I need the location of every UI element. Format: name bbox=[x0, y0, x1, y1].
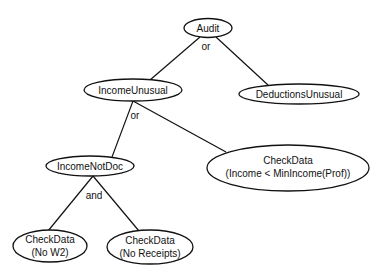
node-checkw2-label-line2: (No W2) bbox=[31, 247, 68, 258]
edge-incomenotdoc-checkw2 bbox=[48, 176, 93, 231]
edge-incomeunusual-checkincome bbox=[133, 101, 226, 152]
gate-label-incomeunusual: or bbox=[131, 110, 141, 121]
node-checkreceipts-label-line1: CheckData bbox=[125, 235, 175, 246]
edge-audit-incomeunusual bbox=[150, 37, 200, 80]
node-incomenotdoc-label: IncomeNotDoc bbox=[57, 161, 123, 172]
node-checkincome-label-line2: (Income < MinIncome(Prof)) bbox=[226, 168, 351, 179]
node-audit-label: Audit bbox=[197, 23, 220, 34]
node-deductionsunusual-label: DeductionsUnusual bbox=[256, 89, 343, 100]
node-checkw2-label-line1: CheckData bbox=[25, 234, 75, 245]
gate-label-audit: or bbox=[202, 41, 212, 52]
edge-incomenotdoc-checkreceipts bbox=[93, 176, 139, 231]
fault-tree-diagram: Audit IncomeUnusual DeductionsUnusual In… bbox=[0, 0, 372, 278]
node-checkincome-label-line1: CheckData bbox=[263, 155, 313, 166]
gate-label-incomenotdoc: and bbox=[86, 190, 103, 201]
node-checkreceipts-label-line2: (No Receipts) bbox=[119, 248, 180, 259]
edge-audit-deductionsunusual bbox=[216, 37, 268, 85]
node-incomeunusual-label: IncomeUnusual bbox=[98, 85, 167, 96]
